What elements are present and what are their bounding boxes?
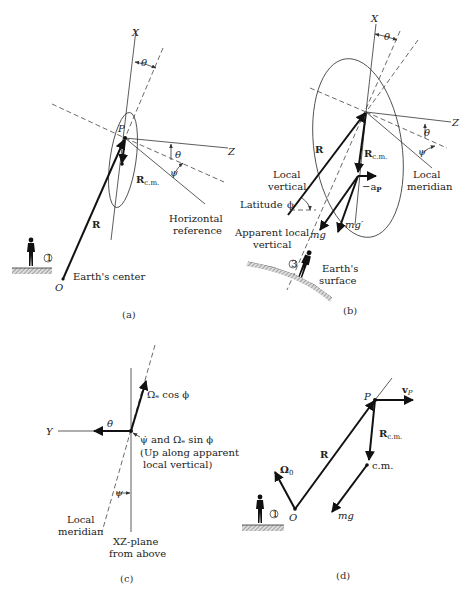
local-vertical-dashed [366, 40, 418, 112]
local-meridian-label-1: Local [413, 169, 440, 180]
up-along-label-1: (Up along apparent [140, 447, 239, 458]
observer-3-icon [296, 249, 313, 278]
local-vertical-label-1: Local [273, 169, 300, 180]
omega0-label: Ω0 [280, 464, 293, 477]
rcm-label: Rc.m. [379, 428, 402, 441]
vector-mg [332, 465, 367, 512]
pointer-arrow [133, 433, 140, 437]
panel-a: X θ P Z θ ψ Rc.m. R Horizontal reference… [12, 27, 236, 320]
xz-plane-label-1: XZ-plane [113, 536, 158, 547]
caption-b: (b) [343, 305, 357, 316]
origin-dot [129, 429, 133, 433]
latitude-label: Latitude [240, 199, 283, 210]
z-axis-label: Z [451, 117, 460, 128]
r-label: R [320, 449, 329, 460]
vector-r [295, 401, 374, 509]
local-meridian-label-1: Local [67, 514, 94, 525]
x-axis-label: X [131, 27, 140, 38]
point-p-dot [373, 398, 377, 402]
vector-omega-cos [131, 381, 146, 431]
apparent-vertical-label-2: vertical [252, 239, 291, 250]
z-axis-label: Z [227, 146, 236, 157]
observer-1-icon [27, 238, 35, 266]
horizontal-reference-label-1: Horizontal [169, 213, 223, 224]
ap-label: −aP [362, 181, 382, 194]
r-label: R [315, 144, 324, 155]
mg-prime-label: mg′ [345, 219, 364, 230]
local-meridian-label-2: meridian [58, 526, 104, 537]
observer-1-icon [256, 495, 264, 523]
origin-label: O [289, 512, 297, 523]
vector-omega0 [275, 472, 295, 509]
latitude-arc [302, 198, 310, 210]
vector-rcm [369, 400, 375, 460]
caption-d: (d) [336, 570, 350, 581]
psi-label: ψ [418, 146, 426, 157]
panel-c: Y θ̇ Ωₑ cos ϕ ψ̇ and Ωₑ sin ϕ (Up along … [46, 345, 239, 584]
y-axis-label: Y [46, 426, 54, 437]
ground-hatch [12, 268, 52, 274]
observer-badge-label: 3 [291, 258, 297, 269]
psi-label: ψ [170, 167, 178, 178]
z-axis-line [366, 112, 451, 122]
theta-dot-label: θ̇ [107, 418, 113, 429]
earth-surface-label-2: surface [319, 275, 357, 286]
z-axis-line [125, 138, 228, 148]
cm-label: c.m. [372, 460, 393, 471]
local-vertical-label-2: vertical [267, 181, 306, 192]
ground-hatch [242, 525, 284, 531]
cm-dot [365, 463, 369, 467]
vp-label: vP [401, 384, 413, 397]
observer-badge-label: 1 [272, 508, 278, 519]
mg-label: mg [338, 510, 354, 521]
observer-badge-label: 1 [46, 252, 52, 263]
theta-label: θ [384, 31, 390, 42]
up-along-label-2: local vertical) [143, 459, 212, 470]
dashed-reference-line [366, 112, 447, 148]
local-meridian-label-2: meridian [407, 181, 453, 192]
mg-label: mg [310, 229, 326, 240]
caption-c: (c) [120, 573, 134, 584]
rcm-label: Rc.m. [136, 174, 159, 187]
cm-dot [120, 162, 124, 166]
psi-dot-label: ψ̇ and Ωₑ sin ϕ [140, 434, 213, 445]
earth-center-label: Earth's center [73, 271, 145, 282]
extension-line [375, 378, 392, 400]
phi-label: ϕ [287, 199, 294, 210]
figure-canvas: X θ P Z θ ψ Rc.m. R Horizontal reference… [0, 0, 470, 599]
theta-label: θ [141, 57, 147, 68]
earth-surface-label-1: Earth's [322, 263, 358, 274]
horizontal-dashed-line [52, 104, 125, 138]
x-axis-line [366, 24, 376, 112]
xz-plane-label-2: from above [109, 548, 166, 559]
origin-dot [61, 277, 64, 280]
panel-b: X θ Z θ ψ R Rc.m. −aP Local meridian Loc… [234, 13, 460, 316]
point-p-label: P [117, 123, 125, 134]
r-label: R [92, 219, 101, 230]
theta-label-2: θ [175, 149, 181, 160]
caption-a: (a) [122, 309, 136, 320]
apparent-vertical-label-1: Apparent local [234, 227, 309, 238]
horizontal-reference-label-2: reference [173, 225, 222, 236]
psi-label: ψ [115, 487, 123, 498]
origin-label: O [55, 282, 63, 293]
horizontal-dashed-line [310, 88, 366, 112]
x-axis-label: X [370, 13, 379, 24]
panel-d: P vP Rc.m. R c.m. Ω0 mg O 1 (d) [242, 378, 413, 581]
point-p-dot [123, 136, 127, 140]
point-p-label: P [363, 391, 371, 402]
rcm-label: Rc.m. [364, 148, 387, 161]
theta-label-2: θ [424, 127, 430, 138]
origin-dot [293, 507, 297, 511]
omega-cos-label: Ωₑ cos ϕ [147, 389, 189, 400]
